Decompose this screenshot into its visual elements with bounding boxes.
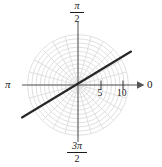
angle-label-three-half-pi: 3π 2 — [67, 141, 87, 164]
x-axis-arrowhead — [137, 81, 145, 88]
radial-tick-label-10: 10 — [117, 89, 127, 99]
angle-label-three-half-pi-denominator: 2 — [67, 153, 87, 164]
angle-label-half-pi: π 2 — [70, 1, 84, 24]
radial-tick-label-5: 5 — [98, 89, 103, 99]
angle-label-three-half-pi-numerator: 3π — [67, 141, 87, 152]
angle-label-zero: 0 — [147, 79, 153, 90]
angle-label-pi: π — [5, 79, 11, 90]
angle-label-half-pi-denominator: 2 — [70, 13, 84, 24]
polar-plot-figure: 0 π π 2 3π 2 5 10 — [0, 0, 162, 167]
angle-label-half-pi-numerator: π — [70, 1, 84, 12]
